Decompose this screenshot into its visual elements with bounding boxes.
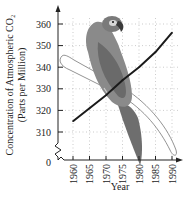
y-zero-label: 0 (46, 157, 51, 168)
y-axis-arrow-icon (56, 5, 61, 12)
y-tick-label: 360 (36, 19, 51, 30)
parrot-eye (112, 21, 114, 23)
data-point (72, 120, 74, 122)
x-axis-break (58, 157, 64, 160)
x-tick-label: 1980 (134, 164, 145, 184)
y-axis-title-line2: (Parts per Million) (16, 48, 28, 122)
y-tick-label: 340 (36, 62, 51, 73)
x-tick-label: 1965 (84, 164, 95, 184)
data-point (138, 66, 140, 68)
y-axis-title-line1: Concentration of Atmospheric CO₂ (4, 15, 15, 156)
parrot-illustration (60, 16, 176, 165)
data-point (155, 51, 157, 53)
data-point (89, 107, 91, 109)
data-point (171, 32, 173, 34)
data-point (122, 79, 124, 81)
x-axis-title: Year (111, 181, 130, 192)
x-tick-label: 1960 (68, 164, 79, 184)
data-point (105, 94, 107, 96)
y-tick-label: 330 (36, 83, 51, 94)
x-tick-label: 1985 (150, 164, 161, 184)
y-tick-label: 310 (36, 127, 51, 138)
y-tick-label: 350 (36, 40, 51, 51)
x-tick-label: 1990 (167, 164, 178, 184)
x-axis-arrow-icon (176, 158, 183, 163)
y-tick-label: 320 (36, 105, 51, 116)
co2-chart: 1960196519701975198019851990310320330340… (0, 0, 189, 205)
parrot-tail (118, 103, 142, 165)
